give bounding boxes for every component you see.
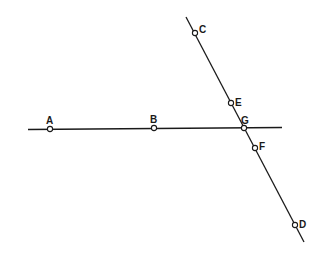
point-B <box>151 125 156 130</box>
label-A: A <box>46 115 53 126</box>
label-D: D <box>299 219 306 230</box>
geometry-diagram: ABCEGFD <box>0 0 319 258</box>
label-E: E <box>235 97 242 108</box>
point-C <box>192 30 197 35</box>
lines-group <box>28 17 304 242</box>
point-F <box>252 145 257 150</box>
point-A <box>47 126 52 131</box>
point-G <box>241 125 246 130</box>
label-B: B <box>150 114 157 125</box>
point-E <box>228 100 233 105</box>
label-G: G <box>241 115 249 126</box>
label-C: C <box>199 24 206 35</box>
label-F: F <box>259 141 265 152</box>
point-D <box>292 222 297 227</box>
